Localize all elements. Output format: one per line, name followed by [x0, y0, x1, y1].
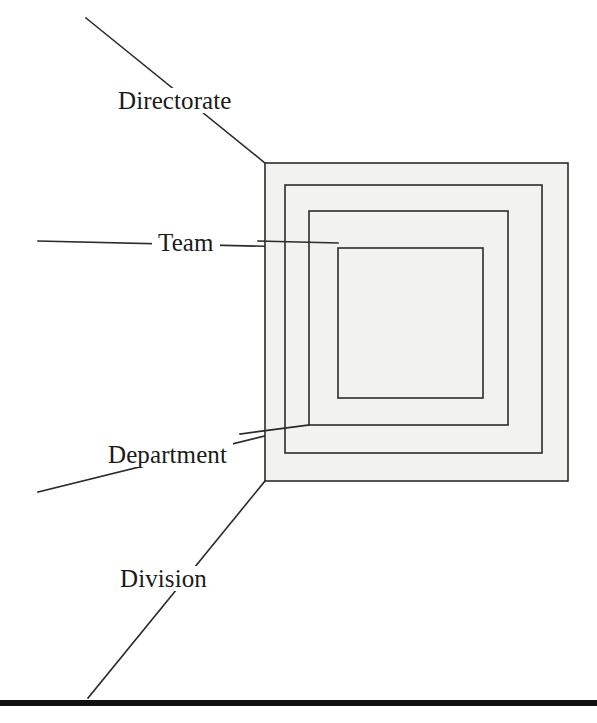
- label-team: Team: [152, 230, 220, 255]
- ring-team-rect: [338, 248, 483, 398]
- nested-squares-group: [265, 163, 568, 481]
- label-directorate: Directorate: [112, 88, 238, 113]
- label-department: Department: [102, 442, 233, 467]
- label-division: Division: [114, 566, 213, 591]
- diagram-canvas: [0, 0, 597, 723]
- figure-root: Directorate Team Department Division: [0, 0, 597, 723]
